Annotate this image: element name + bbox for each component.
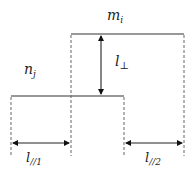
segment-distance-diagram: mi nj l⊥ l//1 l//2 [0,0,196,171]
perpendicular-distance-label: l⊥ [115,53,129,71]
parallel-distance-1-label: l//1 [26,150,42,167]
parallel-distance-2-label: l//2 [145,150,161,167]
upper-segment-label: mi [107,7,123,25]
lower-segment-label: nj [24,61,36,79]
